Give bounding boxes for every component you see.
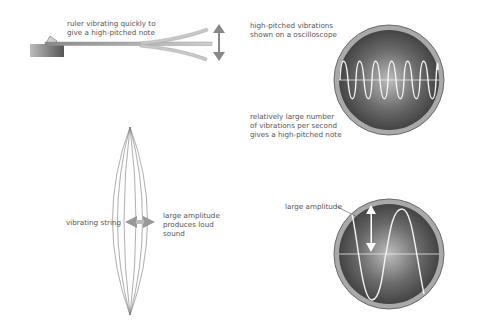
ruler-down — [140, 44, 207, 61]
oscilloscope-high-pitch — [334, 25, 444, 135]
high-pitched-label: high-pitched vibrations shown on a oscil… — [250, 21, 337, 39]
diagram-canvas — [0, 0, 483, 334]
table-block — [30, 44, 64, 57]
large-amplitude-label: large amplitude — [285, 202, 342, 211]
oscilloscope-loud — [334, 199, 444, 309]
amplitude-arrow-icon — [125, 216, 155, 228]
vibrations-per-second-label: relatively large number of vibrations pe… — [250, 112, 342, 139]
large-amplitude-sound-label: large amplitude produces loud sound — [163, 211, 220, 238]
vibrating-string-label: vibrating string — [66, 218, 121, 227]
ruler-rest — [45, 42, 212, 46]
double-arrow-icon — [213, 24, 225, 61]
ruler-label: ruler vibrating quickly to give a high-p… — [67, 19, 156, 37]
